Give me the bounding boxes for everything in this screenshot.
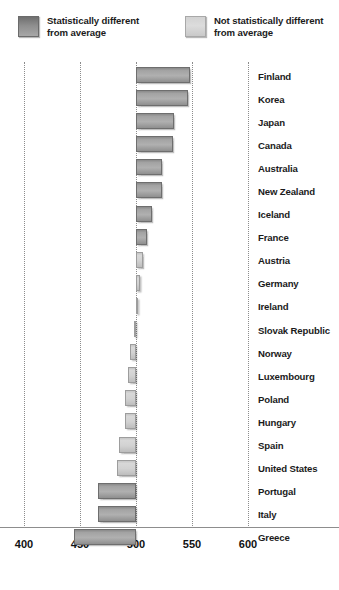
bar-row: Iceland: [0, 203, 339, 226]
row-label-ireland: Ireland: [258, 301, 288, 312]
bar-row: Finland: [0, 64, 339, 87]
row-label-greece: Greece: [258, 532, 290, 543]
bar-row: Poland: [0, 387, 339, 410]
row-label-germany: Germany: [258, 278, 299, 289]
bar-row: Korea: [0, 87, 339, 110]
bar-row: Ireland: [0, 295, 339, 318]
row-label-united-states: United States: [258, 463, 317, 474]
row-label-austria: Austria: [258, 255, 290, 266]
bar-row: Australia: [0, 156, 339, 179]
bar-italy: [98, 506, 136, 522]
bar-row: United States: [0, 457, 339, 480]
bar-row: France: [0, 226, 339, 249]
bar-new-zealand: [136, 182, 162, 198]
bar-iceland: [136, 206, 152, 222]
bar-row: Canada: [0, 133, 339, 156]
bar-hungary: [125, 413, 136, 429]
bar-row: Norway: [0, 341, 339, 364]
bar-row: Austria: [0, 249, 339, 272]
bar-finland: [136, 67, 190, 83]
row-label-poland: Poland: [258, 393, 289, 404]
row-label-australia: Australia: [258, 162, 298, 173]
bar-rows-group: FinlandKoreaJapanCanadaAustraliaNew Zeal…: [0, 64, 339, 526]
legend-swatch-light-icon: [185, 16, 206, 37]
bar-greece: [74, 529, 136, 545]
legend-swatch-dark-icon: [18, 16, 39, 37]
bar-chart-plot-area: 400450500550600 FinlandKoreaJapanCanadaA…: [0, 62, 339, 554]
bar-austria: [136, 252, 143, 268]
bar-poland: [125, 390, 136, 406]
chart-legend: Statistically different from average Not…: [0, 0, 339, 60]
row-label-finland: Finland: [258, 70, 291, 81]
row-label-italy: Italy: [258, 509, 276, 520]
row-label-japan: Japan: [258, 116, 285, 127]
bar-row: Portugal: [0, 480, 339, 503]
row-label-france: France: [258, 232, 289, 243]
bar-korea: [136, 90, 188, 106]
bar-canada: [136, 136, 173, 152]
bar-spain: [119, 437, 136, 453]
bar-row: Germany: [0, 272, 339, 295]
row-label-slovak-republic: Slovak Republic: [258, 324, 330, 335]
bar-ireland: [136, 298, 138, 314]
bar-germany: [136, 275, 140, 291]
bar-row: Luxembourg: [0, 364, 339, 387]
bar-row: Hungary: [0, 410, 339, 433]
legend-label-statistically-different: Statistically different from average: [47, 15, 139, 38]
bar-norway: [130, 344, 136, 360]
legend-item-not-statistically-different: Not statistically different from average: [185, 15, 323, 38]
bar-united-states: [117, 460, 136, 476]
row-label-canada: Canada: [258, 139, 292, 150]
bar-row: Spain: [0, 434, 339, 457]
legend-label-not-statistically-different: Not statistically different from average: [214, 15, 323, 38]
bar-row: Japan: [0, 110, 339, 133]
row-label-norway: Norway: [258, 347, 292, 358]
row-label-hungary: Hungary: [258, 416, 296, 427]
bar-row: New Zealand: [0, 179, 339, 202]
row-label-portugal: Portugal: [258, 486, 296, 497]
row-label-iceland: Iceland: [258, 209, 290, 220]
row-label-korea: Korea: [258, 93, 284, 104]
bar-france: [136, 229, 147, 245]
bar-portugal: [98, 483, 136, 499]
bar-row: Greece: [0, 526, 339, 549]
row-label-spain: Spain: [258, 440, 283, 451]
legend-item-statistically-different: Statistically different from average: [18, 15, 139, 38]
bar-japan: [136, 113, 174, 129]
row-label-new-zealand: New Zealand: [258, 186, 315, 197]
row-label-luxembourg: Luxembourg: [258, 370, 315, 381]
bar-luxembourg: [128, 367, 136, 383]
bar-row: Slovak Republic: [0, 318, 339, 341]
bar-row: Italy: [0, 503, 339, 526]
bar-slovak-republic: [134, 321, 136, 337]
bar-australia: [136, 159, 162, 175]
